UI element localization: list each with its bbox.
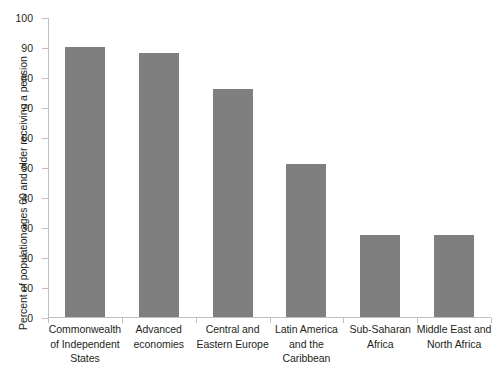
bar: [139, 53, 179, 317]
x-axis-category-label-line: North Africa: [414, 337, 494, 352]
y-axis-tick-label: 50: [21, 161, 33, 175]
bar: [65, 47, 105, 317]
y-axis-tick: 100: [42, 18, 48, 19]
x-axis-category-label-line: Africa: [340, 337, 420, 352]
bar: [434, 235, 474, 318]
y-axis-tick: 10: [42, 288, 48, 289]
y-axis-tick: 20: [42, 258, 48, 259]
y-axis-tick: 40: [42, 198, 48, 199]
y-axis-tick-label: 0: [27, 311, 33, 325]
x-axis-category-label-line: Commonwealth: [45, 322, 125, 337]
x-axis-category-label-line: States: [45, 351, 125, 366]
bar: [286, 164, 326, 317]
x-axis-category-label: Advancedeconomies: [119, 322, 199, 351]
x-axis-category-label: Latin Americaand theCaribbean: [267, 322, 347, 366]
bar-chart: Percent of population ages 60 and older …: [0, 0, 498, 378]
y-axis-tick: 80: [42, 78, 48, 79]
x-axis-category-label-line: Caribbean: [267, 351, 347, 366]
x-axis-category-label-line: Latin America: [267, 322, 347, 337]
x-axis-category-label: Sub-SaharanAfrica: [340, 322, 420, 351]
y-axis-tick-label: 10: [21, 281, 33, 295]
x-axis-category-label-line: economies: [119, 337, 199, 352]
y-axis-tick-label: 100: [15, 11, 33, 25]
y-axis-line: [48, 18, 49, 318]
y-axis-tick: 30: [42, 228, 48, 229]
x-axis-category-label-line: Middle East and: [414, 322, 494, 337]
y-axis-tick-label: 30: [21, 221, 33, 235]
x-axis-category-label: Central andEastern Europe: [193, 322, 273, 351]
y-axis-tick-label: 20: [21, 251, 33, 265]
x-axis-category-label-line: and the: [267, 337, 347, 352]
x-axis-category-label-line: Advanced: [119, 322, 199, 337]
y-axis-tick: 60: [42, 138, 48, 139]
y-axis-tick: 70: [42, 108, 48, 109]
y-axis-tick-label: 70: [21, 101, 33, 115]
y-axis-tick-label: 80: [21, 71, 33, 85]
x-axis-category-label-line: Eastern Europe: [193, 337, 273, 352]
y-axis-tick: 50: [42, 168, 48, 169]
x-axis-category-label: Commonwealthof IndependentStates: [45, 322, 125, 366]
x-axis-category-label-line: of Independent: [45, 337, 125, 352]
y-axis-tick-label: 40: [21, 191, 33, 205]
x-axis-category-label: Middle East andNorth Africa: [414, 322, 494, 351]
x-axis-category-label-line: Central and: [193, 322, 273, 337]
x-axis-labels: Commonwealthof IndependentStatesAdvanced…: [48, 322, 491, 378]
y-axis-tick-label: 60: [21, 131, 33, 145]
bar: [360, 235, 400, 318]
plot-area: 1009080706050403020100: [48, 18, 491, 318]
x-axis-category-label-line: Sub-Saharan: [340, 322, 420, 337]
y-axis-tick: 90: [42, 48, 48, 49]
y-axis-tick-label: 90: [21, 41, 33, 55]
bar: [213, 89, 253, 317]
